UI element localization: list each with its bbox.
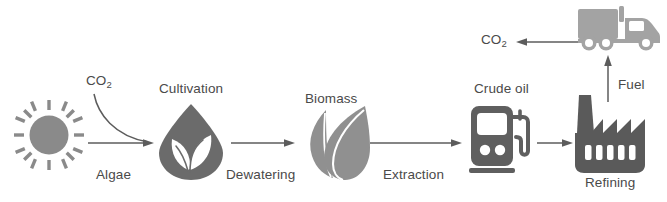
truck-icon [576,4,662,54]
arrow-extraction [370,135,464,151]
arrow-crude-to-refining [537,135,575,151]
double-leaf-icon [293,104,373,182]
fuel-pump-icon [468,103,534,175]
arrow-dewatering [231,135,297,151]
fuel-label: Fuel [618,78,645,92]
co2-input-text: CO [86,73,106,88]
co2-output-text: CO [481,32,501,47]
dewatering-label: Dewatering [226,168,295,182]
arrow-sun-to-cultivation [88,135,156,151]
co2-output-subscript: 2 [501,38,506,49]
factory-icon [573,93,647,175]
sun-icon [12,98,86,172]
co2-output-label: CO2 [481,33,507,47]
algae-biofuel-lifecycle-diagram: CO2 Algae Cultivation [0,0,667,202]
arrow-fuel-up [600,54,616,102]
co2-input-subscript: 2 [106,79,111,90]
droplet-leaf-icon [157,103,225,181]
co2-input-label: CO2 [86,74,112,88]
cultivation-label: Cultivation [159,82,223,96]
algae-label: Algae [96,168,131,182]
crude-oil-label: Crude oil [474,82,529,96]
extraction-label: Extraction [383,168,444,182]
arrow-co2-emission [516,34,578,50]
refining-label: Refining [585,176,635,190]
